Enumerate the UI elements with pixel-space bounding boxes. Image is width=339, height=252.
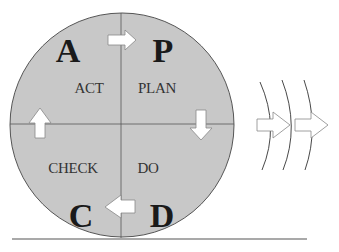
letter-plan: P [153, 32, 174, 69]
letter-act: A [56, 32, 81, 69]
label-do: DO [137, 160, 159, 176]
label-act: ACT [74, 80, 103, 96]
pdca-diagram: A P D C ACT PLAN DO CHECK [0, 0, 339, 252]
motion-arrow-right-icon [257, 112, 290, 138]
motion-arrow-right-icon [295, 112, 328, 138]
letter-do: D [150, 197, 175, 234]
label-plan: PLAN [138, 80, 176, 96]
label-check: CHECK [48, 160, 98, 176]
letter-check: C [69, 197, 94, 234]
